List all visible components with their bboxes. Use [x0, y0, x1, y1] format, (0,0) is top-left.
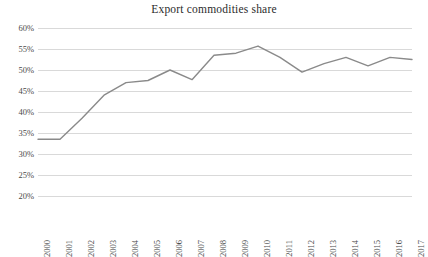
x-axis-tick-label: 2015	[372, 240, 382, 257]
y-axis-tick-label: 35%	[18, 128, 34, 138]
x-axis-tick-label: 2009	[240, 240, 250, 257]
x-axis-labels: 2000200120022003200420052006200720082009…	[38, 198, 412, 243]
y-axis-tick-label: 50%	[18, 65, 34, 75]
x-axis-tick-label: 2000	[42, 240, 52, 257]
x-axis-tick-label: 2011	[284, 240, 294, 257]
x-axis-tick-label: 2002	[86, 240, 96, 257]
x-axis-tick-label: 2012	[306, 240, 316, 257]
x-axis-tick-label: 2004	[130, 240, 140, 257]
y-axis-tick-label: 25%	[18, 170, 34, 180]
x-axis-tick-label: 2016	[394, 240, 404, 257]
x-axis-tick-label: 2013	[328, 240, 338, 257]
x-axis-tick-label: 2014	[350, 240, 360, 257]
plot-area	[38, 28, 412, 196]
x-axis-tick-label: 2006	[174, 240, 184, 257]
y-axis-tick-label: 30%	[18, 149, 34, 159]
x-axis-tick-label: 2001	[64, 240, 74, 257]
chart-title: Export commodities share	[0, 3, 428, 15]
x-axis-tick-label: 2007	[196, 240, 206, 257]
x-axis-tick-label: 2005	[152, 240, 162, 257]
x-axis-tick-label: 2017	[416, 240, 426, 257]
x-axis-tick-label: 2010	[262, 240, 272, 257]
y-axis-tick-label: 20%	[18, 191, 34, 201]
y-axis-tick-label: 40%	[18, 107, 34, 117]
y-axis-tick-label: 45%	[18, 86, 34, 96]
gridline	[38, 196, 412, 197]
x-axis-tick-label: 2003	[108, 240, 118, 257]
y-axis-tick-label: 55%	[18, 44, 34, 54]
series-line	[38, 28, 412, 196]
y-axis-tick-label: 60%	[18, 23, 34, 33]
y-axis-labels: 60%55%50%45%40%35%30%25%20%	[0, 28, 34, 196]
x-axis-tick-label: 2008	[218, 240, 228, 257]
